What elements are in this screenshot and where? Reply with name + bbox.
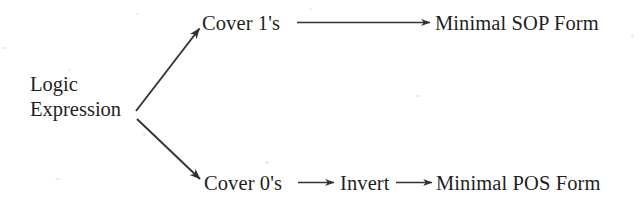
edge-source-to-cover-zeros (137, 119, 200, 179)
node-logic-expression-line-1: Logic (30, 72, 121, 97)
node-minimal-pos-form: Minimal POS Form (436, 172, 601, 196)
node-invert: Invert (340, 172, 390, 196)
scan-speckle (136, 13, 139, 15)
diagram-canvas: Logic Expression Cover 1's Minimal SOP F… (0, 0, 640, 215)
scan-speckle (3, 47, 7, 49)
node-logic-expression-line-2: Expression (30, 97, 121, 122)
node-logic-expression: Logic Expression (30, 72, 121, 122)
node-cover-ones: Cover 1's (202, 12, 280, 36)
edge-source-to-cover-ones (136, 29, 200, 112)
scan-speckle (143, 133, 146, 136)
scan-speckle (416, 95, 420, 97)
scan-speckle (68, 69, 71, 71)
scan-speckle (309, 8, 312, 10)
scan-speckle (631, 34, 634, 37)
scan-speckle (265, 161, 269, 164)
scan-speckle (55, 178, 60, 180)
node-minimal-sop-form: Minimal SOP Form (435, 12, 599, 36)
node-cover-zeros: Cover 0's (204, 172, 282, 196)
